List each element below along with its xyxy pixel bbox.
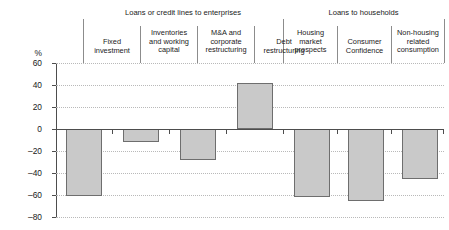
x-axis-tick-1 — [112, 129, 113, 134]
bar-fixed-investment — [66, 129, 102, 196]
x-axis-tick-2 — [169, 129, 170, 134]
y-axis-line — [56, 63, 57, 217]
gridline-minus-20 — [56, 151, 444, 152]
x-axis-tick-3 — [226, 129, 227, 134]
y-tick-label-20: 20 — [20, 103, 42, 112]
bar-inventories-working-capital — [123, 129, 159, 142]
y-tick-label-60: 60 — [20, 59, 42, 68]
bar-consumer-confidence — [348, 129, 384, 201]
caption-line-3: consumption — [392, 46, 444, 55]
column-caption-housing-market: Housing market prospects — [284, 29, 337, 55]
column-caption-ma-corporate: M&A and corporate restructuring — [198, 29, 254, 55]
gridline-60 — [56, 63, 444, 64]
x-axis-tick-0 — [56, 129, 57, 134]
column-caption-non-housing: Non-housing related consumption — [392, 29, 444, 55]
group-label-households: Loans to households — [283, 8, 444, 18]
caption-line-2: Confidence — [338, 47, 391, 56]
y-tick-label-minus-40: –40 — [16, 169, 42, 178]
header-separator-right-households — [444, 19, 445, 63]
y-tick-label-minus-80: –80 — [16, 213, 42, 222]
y-tick-label-0: 0 — [20, 125, 42, 134]
x-axis-tick-6 — [391, 129, 392, 134]
y-tick-label-minus-60: –60 — [16, 191, 42, 200]
gridline-minus-80 — [56, 217, 444, 218]
x-axis-tick-5 — [337, 129, 338, 134]
bar-housing-market-prospects — [294, 129, 330, 197]
x-axis-tick-4 — [283, 129, 284, 134]
column-caption-consumer-confidence: Consumer Confidence — [338, 38, 391, 55]
group-label-enterprises: Loans or credit lines to enterprises — [83, 8, 283, 18]
caption-line-3: capital — [141, 46, 197, 55]
y-axis-unit-label: % — [22, 49, 42, 58]
bar-chart: Loans or credit lines to enterprises Loa… — [0, 0, 449, 230]
plot-area — [56, 63, 444, 217]
bar-debt-restructuring — [237, 83, 273, 129]
y-tick-label-minus-20: –20 — [16, 147, 42, 156]
gridline-minus-40 — [56, 173, 444, 174]
bar-non-housing-related-consumption — [402, 129, 438, 179]
x-axis-tick-7 — [443, 129, 444, 134]
caption-line-3: restructuring — [198, 46, 254, 55]
y-tick-label-40: 40 — [20, 81, 42, 90]
gridline-minus-60 — [56, 195, 444, 196]
caption-line-2: investment — [85, 47, 139, 56]
column-caption-inventories: Inventories and working capital — [141, 29, 197, 55]
zero-axis-line — [56, 129, 444, 130]
caption-line-3: prospects — [284, 46, 337, 55]
column-caption-fixed-investment: Fixed investment — [85, 38, 139, 55]
header-separator-left-enterprises — [83, 19, 84, 63]
bar-ma-corporate-restructuring — [180, 129, 216, 160]
